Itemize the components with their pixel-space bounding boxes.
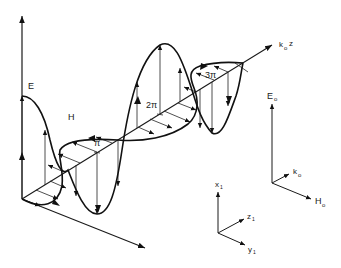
e0-label: E	[267, 91, 273, 101]
svg-text:o: o	[322, 202, 326, 208]
h0-label: H	[315, 196, 322, 206]
svg-text:o: o	[284, 45, 288, 51]
field-triad: E o k o H o	[267, 91, 326, 208]
svg-text:1: 1	[253, 249, 256, 255]
phase-label-2pi: 2π	[146, 100, 157, 110]
main-axes	[22, 16, 272, 248]
h-field-label: H	[68, 112, 75, 122]
coordinate-triad: x 1 z 1 y 1	[215, 180, 256, 255]
propagation-axis-label: k o z	[279, 39, 293, 51]
x1-label: x	[215, 180, 219, 189]
svg-text:1: 1	[252, 216, 255, 222]
e-field-label: E	[28, 81, 34, 91]
svg-text:z: z	[289, 39, 293, 48]
svg-text:1: 1	[220, 184, 223, 190]
phase-label-pi: π	[94, 138, 100, 148]
y1-label: y	[248, 245, 252, 254]
svg-text:o: o	[298, 172, 302, 178]
em-wave-diagram: E H π 2π 3π k o z E o k o H o x 1 z 1 y …	[0, 0, 341, 268]
svg-text:o: o	[274, 96, 278, 102]
curve-arrows	[19, 63, 232, 213]
phase-label-3pi: 3π	[205, 70, 216, 80]
z-axis	[22, 45, 272, 199]
z1-label: z	[247, 212, 251, 221]
h-axis	[22, 199, 145, 248]
